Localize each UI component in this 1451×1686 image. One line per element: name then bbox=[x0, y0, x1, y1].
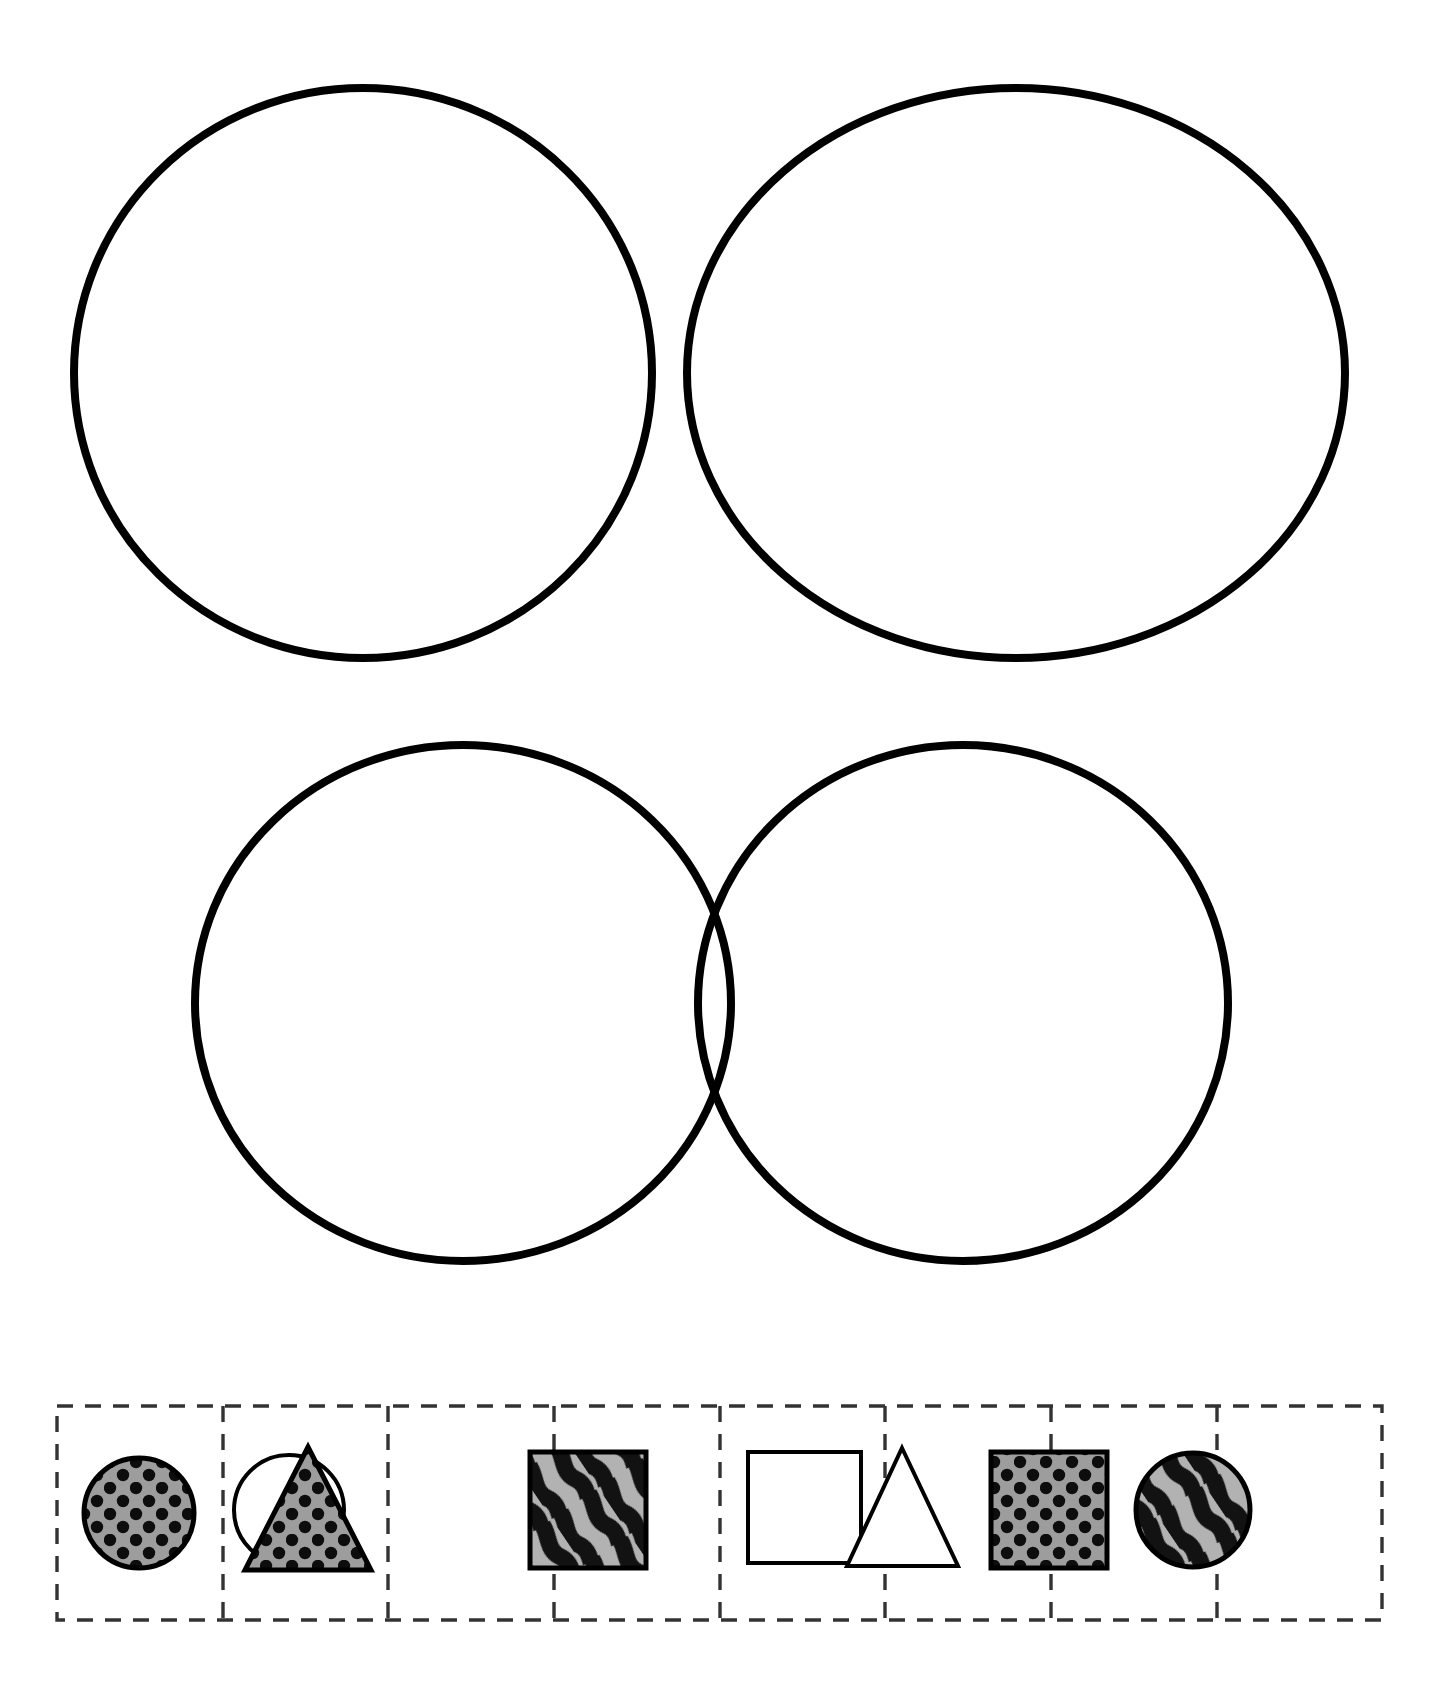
plain-triangle-icon[interactable] bbox=[847, 1448, 958, 1566]
cut-out-shape-strip bbox=[57, 1406, 1382, 1620]
striped-square-icon[interactable] bbox=[530, 1452, 646, 1568]
top-right-circle bbox=[687, 88, 1345, 658]
top-left-circle bbox=[74, 88, 652, 658]
bottom-left-circle bbox=[195, 745, 731, 1261]
bottom-right-circle bbox=[698, 745, 1228, 1261]
overlapping-circles-pair bbox=[195, 745, 1228, 1261]
dotted-circle-icon[interactable] bbox=[84, 1458, 194, 1568]
plain-square-icon[interactable] bbox=[748, 1452, 861, 1563]
separate-circles-pair bbox=[74, 88, 1345, 658]
worksheet-canvas bbox=[0, 0, 1451, 1686]
striped-circle-icon[interactable] bbox=[1136, 1453, 1250, 1567]
dotted-square-icon[interactable] bbox=[991, 1452, 1107, 1568]
worksheet-page: Venn diagram shape sorting worksheet bbox=[0, 0, 1451, 1686]
